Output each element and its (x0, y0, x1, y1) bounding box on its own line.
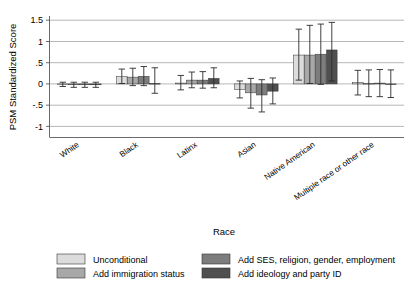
y-tick-label: 1 (38, 37, 43, 47)
legend-label: Add immigration status (93, 269, 185, 279)
legend-label: Add SES, religion, gender, employment (238, 255, 396, 265)
y-tick-label: .5 (35, 58, 43, 68)
legend-swatch (57, 268, 85, 278)
y-tick-label: -1 (35, 122, 43, 132)
x-axis-title: Race (213, 226, 235, 237)
figure-background (0, 0, 416, 295)
legend-label: Add ideology and party ID (238, 269, 342, 279)
chart-figure: 1.51.50-.5-1 PSM Standardized Score Whit… (0, 0, 416, 295)
y-tick-label: 0 (38, 79, 43, 89)
y-tick-label: 1.5 (30, 15, 43, 25)
y-axis-title: PSM Standardized Score (7, 24, 18, 131)
legend-swatch (57, 254, 85, 264)
legend-swatch (202, 254, 230, 264)
legend-swatch (202, 268, 230, 278)
y-tick-label: -.5 (32, 100, 43, 110)
psm-standardized-score-bar-chart: 1.51.50-.5-1 PSM Standardized Score Whit… (0, 0, 416, 295)
legend-label: Unconditional (93, 255, 148, 265)
